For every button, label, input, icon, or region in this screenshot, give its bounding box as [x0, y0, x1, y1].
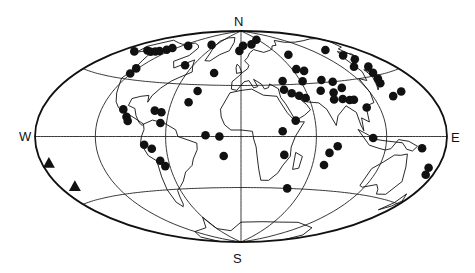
dot-marker	[389, 92, 398, 101]
dot-marker	[201, 131, 210, 140]
dot-marker	[252, 36, 261, 45]
dot-marker	[239, 41, 248, 50]
dot-marker	[278, 77, 287, 86]
dot-marker	[181, 61, 190, 70]
triangle-marker	[69, 180, 81, 191]
coastline	[221, 89, 305, 180]
graticule	[35, 31, 447, 242]
dot-marker	[130, 47, 139, 56]
dot-marker	[161, 162, 170, 171]
dot-marker	[369, 134, 378, 143]
dot-marker	[283, 184, 292, 193]
dot-marker	[320, 161, 329, 170]
dot-marker	[193, 87, 202, 96]
dot-marker	[350, 95, 359, 104]
dot-marker	[292, 65, 301, 74]
dot-marker	[338, 84, 347, 93]
dot-marker	[325, 149, 334, 158]
west-label: W	[19, 129, 32, 144]
dot-marker	[280, 151, 289, 160]
dot-marker	[300, 67, 309, 76]
dot-marker	[362, 103, 371, 112]
dot-marker	[157, 108, 166, 117]
dot-marker	[291, 116, 300, 125]
triangle-marker	[43, 157, 55, 168]
dot-marker	[333, 142, 342, 151]
east-label: E	[451, 130, 460, 145]
dot-marker	[156, 119, 165, 128]
dot-marker	[317, 76, 326, 85]
dot-marker	[123, 117, 132, 126]
dot-marker	[184, 42, 193, 51]
coastline	[205, 38, 235, 62]
dot-marker	[421, 171, 430, 180]
world-map: N S W E	[0, 0, 475, 273]
dot-marker	[321, 46, 330, 55]
north-label: N	[234, 14, 243, 29]
dot-marker	[284, 51, 293, 60]
dot-marker	[316, 86, 325, 95]
dot-marker	[140, 141, 149, 150]
dot-marker	[219, 152, 228, 161]
coastline	[293, 152, 303, 169]
dot-marker	[148, 145, 157, 154]
dot-marker	[350, 62, 359, 71]
dot-marker	[301, 94, 310, 103]
dot-marker	[376, 79, 385, 88]
dot-marker	[168, 44, 177, 53]
dot-marker	[280, 86, 289, 95]
dot-marker	[351, 55, 360, 64]
dot-marker	[184, 98, 193, 107]
dot-marker	[215, 132, 224, 141]
dot-marker	[126, 69, 135, 78]
dot-marker	[278, 127, 287, 136]
south-label: S	[233, 251, 242, 266]
dot-marker	[418, 144, 427, 153]
coastline	[358, 129, 418, 151]
dot-marker	[207, 41, 216, 50]
dot-marker	[298, 77, 307, 86]
dot-marker	[287, 89, 296, 98]
dot-marker	[397, 87, 406, 96]
dot-marker	[330, 95, 339, 104]
dot-marker	[210, 69, 219, 78]
dot-marker	[328, 77, 337, 86]
dot-marker	[339, 51, 348, 60]
coastline	[360, 154, 408, 194]
